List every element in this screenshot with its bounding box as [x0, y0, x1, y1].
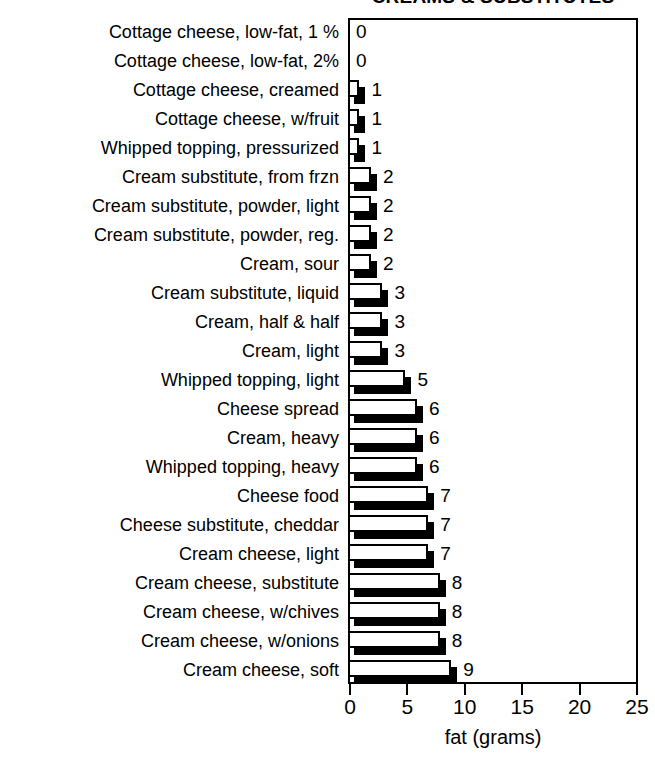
bar-face: [348, 138, 359, 155]
bar-face: [348, 573, 440, 590]
bar-row: 6: [348, 424, 638, 453]
bar-row: 0: [348, 47, 638, 76]
category-label: Cream substitute, liquid: [0, 279, 343, 308]
bar-face: [348, 428, 417, 445]
bar-face: [348, 370, 405, 387]
bar-value-label: 8: [452, 629, 463, 652]
category-label: Cream substitute, powder, reg.: [0, 221, 343, 250]
bar-face: [348, 109, 359, 126]
category-label: Cream substitute, powder, light: [0, 192, 343, 221]
bar-face: [348, 254, 371, 271]
bar-value-label: 1: [371, 107, 382, 130]
category-label: Cheese spread: [0, 395, 343, 424]
bar-row: 2: [348, 192, 638, 221]
bar-row: 1: [348, 105, 638, 134]
x-axis-tick-label: 25: [617, 694, 655, 720]
bar-value-label: 3: [394, 339, 405, 362]
category-label: Cottage cheese, low-fat, 2%: [0, 47, 343, 76]
category-label: Whipped topping, pressurized: [0, 134, 343, 163]
bar-series: 00111222233356667778889: [348, 18, 638, 684]
bar-row: 1: [348, 76, 638, 105]
category-label: Cottage cheese, low-fat, 1 %: [0, 18, 343, 47]
category-label: Cream, sour: [0, 250, 343, 279]
bar-value-label: 3: [394, 310, 405, 333]
x-axis-tick-label: 5: [387, 694, 427, 720]
bar-value-label: 7: [440, 513, 451, 536]
bar-value-label: 7: [440, 484, 451, 507]
bar-value-label: 5: [417, 368, 428, 391]
bar-value-label: 2: [383, 223, 394, 246]
bar-face: [348, 457, 417, 474]
bar-row: 2: [348, 250, 638, 279]
bar-value-label: 1: [371, 136, 382, 159]
bar-row: 7: [348, 540, 638, 569]
bar-row: 2: [348, 163, 638, 192]
bar-row: 5: [348, 366, 638, 395]
bar-face: [348, 631, 440, 648]
bar-row: 3: [348, 279, 638, 308]
bar-value-label: 2: [383, 252, 394, 275]
category-label: Cream cheese, light: [0, 540, 343, 569]
bar-face: [348, 399, 417, 416]
bar-face: [348, 312, 382, 329]
bar-face: [348, 341, 382, 358]
category-label: Cream, light: [0, 337, 343, 366]
bar-value-label: 0: [356, 20, 367, 43]
bar-row: 9: [348, 656, 638, 685]
category-label: Whipped topping, light: [0, 366, 343, 395]
chart-title: CREAMS & SUBSTITUTES: [348, 0, 638, 8]
bar-value-label: 8: [452, 600, 463, 623]
bar-value-label: 2: [383, 165, 394, 188]
bar-chart: CREAMS & SUBSTITUTES Cottage cheese, low…: [0, 0, 655, 762]
bar-face: [348, 80, 359, 97]
x-axis-tick-label: 10: [445, 694, 485, 720]
bar-face: [348, 515, 428, 532]
x-axis-title: fat (grams): [348, 726, 638, 749]
bar-value-label: 6: [429, 455, 440, 478]
category-label: Cheese substitute, cheddar: [0, 511, 343, 540]
x-axis-tick-label: 20: [560, 694, 600, 720]
category-label: Cream, half & half: [0, 308, 343, 337]
bar-row: 3: [348, 337, 638, 366]
category-label: Cottage cheese, creamed: [0, 76, 343, 105]
bar-row: 1: [348, 134, 638, 163]
bar-value-label: 0: [356, 49, 367, 72]
x-axis-tick-label: 15: [502, 694, 542, 720]
bar-row: 6: [348, 453, 638, 482]
bar-row: 8: [348, 598, 638, 627]
bar-row: 8: [348, 627, 638, 656]
bar-value-label: 6: [429, 397, 440, 420]
bar-row: 7: [348, 482, 638, 511]
bar-row: 0: [348, 18, 638, 47]
category-label: Cream cheese, soft: [0, 656, 343, 685]
bar-value-label: 2: [383, 194, 394, 217]
bar-row: 3: [348, 308, 638, 337]
x-axis-tick-labels: 0510152025: [348, 694, 638, 720]
bar-value-label: 1: [371, 78, 382, 101]
bar-face: [348, 544, 428, 561]
category-label: Cheese food: [0, 482, 343, 511]
category-label: Cream cheese, w/onions: [0, 627, 343, 656]
bar-face: [348, 283, 382, 300]
bar-value-label: 7: [440, 542, 451, 565]
bar-value-label: 8: [452, 571, 463, 594]
bar-row: 2: [348, 221, 638, 250]
bar-face: [348, 196, 371, 213]
category-label: Cream, heavy: [0, 424, 343, 453]
bar-face: [348, 167, 371, 184]
bar-row: 8: [348, 569, 638, 598]
bar-value-label: 3: [394, 281, 405, 304]
category-label: Cream cheese, substitute: [0, 569, 343, 598]
category-label: Cream substitute, from frzn: [0, 163, 343, 192]
bar-value-label: 9: [463, 658, 474, 681]
bar-face: [348, 660, 451, 677]
category-axis-labels: Cottage cheese, low-fat, 1 %Cottage chee…: [0, 18, 343, 685]
bar-face: [348, 602, 440, 619]
category-label: Cream cheese, w/chives: [0, 598, 343, 627]
category-label: Cottage cheese, w/fruit: [0, 105, 343, 134]
x-axis-tick-label: 0: [330, 694, 370, 720]
bar-value-label: 6: [429, 426, 440, 449]
bar-row: 7: [348, 511, 638, 540]
bar-face: [348, 225, 371, 242]
bar-row: 6: [348, 395, 638, 424]
